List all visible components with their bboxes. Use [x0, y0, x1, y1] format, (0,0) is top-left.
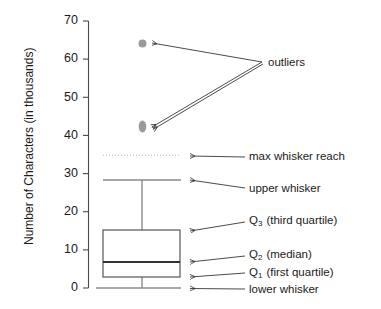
- y-tick-label-70: 70: [64, 13, 78, 27]
- annotation-max-whisker-reach: max whisker reach: [249, 150, 345, 162]
- boxplot-figure: Number of Characters (in thousands) 70 6…: [0, 0, 381, 309]
- interquartile-box: [103, 230, 180, 277]
- annotation-q1-text: (first quartile): [266, 266, 333, 278]
- y-tick-label-60: 60: [64, 51, 78, 65]
- annotation-q2-subscript: 2: [258, 253, 263, 262]
- y-tick-label-50: 50: [64, 90, 78, 104]
- annotation-labels: outliers max whisker reach upper whisker…: [249, 56, 345, 295]
- leader-lower-whisker: [190, 289, 245, 290]
- outlier-point-cluster: [139, 121, 147, 133]
- y-tick-label-0: 0: [71, 280, 78, 294]
- annotation-q2-text: (median): [266, 248, 312, 260]
- y-axis-tick-labels: 70 60 50 40 30 20 10 0: [64, 13, 78, 294]
- leader-outlier-cluster-a: [152, 62, 262, 127]
- y-axis-ticks: [83, 21, 89, 288]
- annotation-q1-subscript: 1: [258, 271, 263, 280]
- annotation-lower-whisker: lower whisker: [249, 283, 319, 295]
- leader-outlier-cluster-b: [153, 64, 263, 130]
- leader-max-whisker-reach: [190, 156, 245, 157]
- annotation-q3: Q3(third quartile): [249, 214, 338, 228]
- leader-q3: [190, 222, 245, 231]
- annotation-q1: Q1(first quartile): [249, 266, 334, 280]
- annotation-q3-symbol: Q: [249, 214, 258, 226]
- annotation-q2: Q2(median): [249, 248, 312, 262]
- y-tick-label-40: 40: [64, 128, 78, 142]
- annotation-outliers: outliers: [268, 56, 305, 68]
- annotation-upper-whisker: upper whisker: [249, 182, 321, 194]
- annotation-q2-symbol: Q: [249, 248, 258, 260]
- y-tick-label-10: 10: [64, 242, 78, 256]
- leader-outlier-upper: [152, 43, 262, 62]
- leader-q1: [190, 273, 245, 277]
- annotation-q1-symbol: Q: [249, 266, 258, 278]
- outlier-point-upper: [139, 40, 147, 48]
- leader-q2: [190, 256, 245, 262]
- annotation-q3-subscript: 3: [258, 219, 263, 228]
- y-axis-title: Number of Characters (in thousands): [22, 48, 36, 245]
- outlier-points: [139, 40, 147, 133]
- boxplot-canvas: Number of Characters (in thousands) 70 6…: [0, 0, 381, 309]
- y-tick-label-30: 30: [64, 166, 78, 180]
- annotation-q3-text: (third quartile): [266, 214, 337, 226]
- y-tick-label-20: 20: [64, 204, 78, 218]
- leader-upper-whisker: [190, 180, 245, 188]
